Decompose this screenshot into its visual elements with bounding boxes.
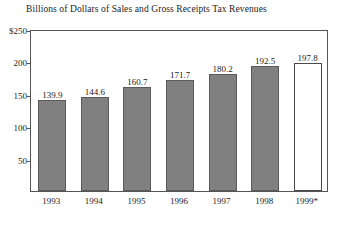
bar-chart-figure: Billions of Dollars of Sales and Gross R…: [0, 0, 344, 225]
bar-slot: 192.5: [251, 31, 279, 191]
x-axis-tick-label: 1997: [200, 196, 243, 206]
x-axis-tick-label: 1994: [73, 196, 116, 206]
x-axis-tick-label: 1996: [158, 196, 201, 206]
y-axis-tick-label: 100: [1, 124, 27, 133]
bar[interactable]: [251, 66, 279, 191]
bar[interactable]: [81, 97, 109, 191]
x-axis-tick-label: 1993: [30, 196, 73, 206]
bar-slot: 171.7: [166, 31, 194, 191]
y-axis-tick-label: $250: [1, 27, 27, 36]
y-axis-tick-label: 200: [1, 59, 27, 68]
bar[interactable]: [123, 87, 151, 191]
bar[interactable]: [294, 63, 322, 191]
y-axis-tick-mark: [27, 63, 31, 64]
x-axis-tick-label: 1999*: [285, 196, 328, 206]
bar-value-label: 197.8: [282, 53, 334, 63]
bar[interactable]: [38, 100, 66, 191]
plot-area: $25020015010050139.9144.6160.7171.7180.2…: [30, 30, 328, 192]
y-axis-tick-mark: [27, 128, 31, 129]
x-axis-tick-label: 1998: [243, 196, 286, 206]
bar-slot: 180.2: [209, 31, 237, 191]
y-axis-tick-label: 150: [1, 91, 27, 100]
bar-value-label: 144.6: [69, 87, 121, 97]
bar[interactable]: [209, 74, 237, 191]
bar-slot: 139.9: [38, 31, 66, 191]
bar-slot: 160.7: [123, 31, 151, 191]
bar[interactable]: [166, 80, 194, 191]
bar-slot: 144.6: [81, 31, 109, 191]
y-axis-tick-label: 50: [1, 156, 27, 165]
x-axis-tick-label: 1995: [115, 196, 158, 206]
plot-inner: $25020015010050139.9144.6160.7171.7180.2…: [31, 31, 327, 191]
y-axis-tick-mark: [27, 161, 31, 162]
y-axis-tick-mark: [27, 31, 31, 32]
bar-slot: 197.8: [294, 31, 322, 191]
chart-title: Billions of Dollars of Sales and Gross R…: [26, 3, 267, 15]
